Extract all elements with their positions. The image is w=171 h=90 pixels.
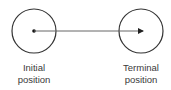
terminal-label-line2: position [106, 74, 171, 86]
terminal-label-line1: Terminal [106, 62, 171, 74]
terminal-position-label: Terminal position [106, 62, 171, 86]
initial-label-line1: Initial [0, 62, 69, 74]
initial-label-line2: position [0, 74, 69, 86]
initial-position-label: Initial position [0, 62, 69, 86]
